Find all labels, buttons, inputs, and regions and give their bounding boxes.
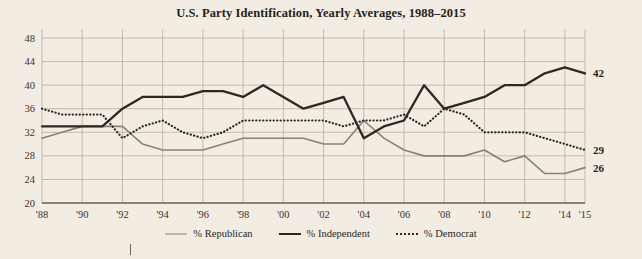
x-tick-label: '12 (518, 209, 530, 220)
legend-swatch-republican-icon (165, 229, 187, 239)
x-tick-label: '10 (478, 209, 490, 220)
end-label-republican: 26 (593, 162, 605, 174)
x-tick-label: '00 (277, 209, 289, 220)
y-tick-label: 28 (25, 150, 36, 161)
legend-item-republican[interactable]: % Republican (165, 228, 252, 239)
legend-label-independent: % Independent (307, 228, 370, 239)
chart-container: U.S. Party Identification, Yearly Averag… (0, 0, 642, 259)
series-end-labels: 264229 (593, 67, 605, 173)
x-tick-label: '88 (36, 209, 48, 220)
y-tick-label: 40 (25, 80, 36, 91)
x-tick-label: '96 (197, 209, 209, 220)
y-tick-label: 48 (25, 33, 36, 44)
x-tick-label: '98 (237, 209, 249, 220)
bottom-tick-mark (130, 244, 131, 255)
y-tick-label: 32 (25, 127, 36, 138)
y-axis-tick-labels: 2024283236404448 (25, 33, 36, 209)
legend-swatch-independent-icon (279, 229, 301, 239)
x-tick-label: '06 (398, 209, 410, 220)
legend-swatch-democrat-icon (396, 229, 418, 239)
legend-label-democrat: % Democrat (424, 228, 477, 239)
x-tick-label: '90 (76, 209, 88, 220)
series-line-republican (42, 121, 585, 174)
legend-item-democrat[interactable]: % Democrat (396, 228, 477, 239)
x-tick-label: '92 (116, 209, 128, 220)
x-tick-label: '94 (156, 209, 169, 220)
y-tick-label: 36 (25, 103, 36, 114)
series-line-democrat (42, 109, 585, 150)
end-label-democrat: 29 (593, 144, 605, 156)
chart-plot: 2024283236404448 '88'90'92'94'96'98'00'0… (0, 0, 642, 232)
x-axis-tick-labels: '88'90'92'94'96'98'00'02'04'06'08'10'12'… (36, 209, 591, 220)
gridlines (42, 29, 585, 203)
x-tick-label: '08 (438, 209, 450, 220)
x-tick-label: '14 (559, 209, 572, 220)
end-label-independent: 42 (593, 67, 605, 79)
legend-label-republican: % Republican (193, 228, 252, 239)
x-tick-label: '15 (579, 209, 591, 220)
y-tick-label: 20 (25, 198, 36, 209)
x-tick-label: '02 (317, 209, 329, 220)
data-series-lines (42, 67, 585, 173)
y-tick-label: 24 (25, 174, 36, 185)
legend-item-independent[interactable]: % Independent (279, 228, 370, 239)
x-tick-label: '04 (358, 209, 371, 220)
chart-legend: % Republican % Independent % Democrat (0, 228, 642, 239)
y-tick-label: 44 (25, 56, 36, 67)
